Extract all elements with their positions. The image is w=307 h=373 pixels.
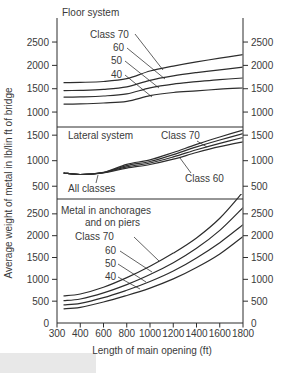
x-tick-label: 1400 <box>185 328 208 339</box>
y-tick-label-left: 2500 <box>27 208 50 219</box>
x-tick-label: 1600 <box>209 328 232 339</box>
y-tick-label-left: 1000 <box>27 274 50 285</box>
leader-line <box>125 61 159 88</box>
y-tick-label-left: 500 <box>32 296 49 307</box>
series-label: Class 70 <box>75 231 114 242</box>
y-tick-label-right: 2500 <box>251 37 274 48</box>
x-tick-label: 800 <box>118 328 135 339</box>
leader-line <box>134 237 159 261</box>
y-tick-label-right: 1500 <box>251 130 274 141</box>
leader-line <box>127 48 165 79</box>
bridge-weight-chart: 10001000150015002000200025002500Floor sy… <box>0 0 307 373</box>
leader-line <box>180 158 191 173</box>
panel-title: and on piers <box>85 217 140 228</box>
figure: 10001000150015002000200025002500Floor sy… <box>0 0 307 373</box>
y-tick-label-left: 2000 <box>27 230 50 241</box>
series-label: 50 <box>105 258 117 269</box>
y-tick-label-right: 1500 <box>251 83 274 94</box>
y-tick-labels: 0050050010001000150015002000200025002500 <box>27 208 274 328</box>
curve-class-70 <box>64 55 243 83</box>
y-tick-label-right: 1000 <box>251 155 274 166</box>
y-tick-label-right: 1000 <box>251 274 274 285</box>
series-label: 40 <box>111 69 123 80</box>
x-tick-label: 400 <box>72 328 89 339</box>
scan-shade <box>0 353 96 373</box>
x-tick-label: 1800 <box>232 328 255 339</box>
series-label: 60 <box>113 42 125 53</box>
y-tick-label-right: 2500 <box>251 208 274 219</box>
series-label: Class 70 <box>161 130 200 141</box>
annotations: Floor systemClass 70605040 <box>62 7 165 97</box>
x-ticks <box>57 323 243 328</box>
y-tick-label-right: 1000 <box>251 107 274 118</box>
y-tick-label-left: 2500 <box>27 37 50 48</box>
panel-title: Metal in anchorages <box>61 205 151 216</box>
y-tick-label-left: 2000 <box>27 60 50 71</box>
series-label: Class 70 <box>90 29 129 40</box>
axes-frame <box>57 18 243 323</box>
panel-floor-system: 10001000150015002000200025002500Floor sy… <box>27 7 274 118</box>
series-label: Class 60 <box>185 173 224 184</box>
y-tick-label-left: 1000 <box>27 155 50 166</box>
x-tick-label: 1000 <box>139 328 162 339</box>
x-tick-label: 600 <box>95 328 112 339</box>
y-tick-label-left: 1500 <box>27 83 50 94</box>
y-tick-label-right: 1500 <box>251 252 274 263</box>
curve-class-50 <box>64 138 243 175</box>
y-tick-label-left: 1000 <box>27 107 50 118</box>
panel-title: Lateral system <box>68 130 133 141</box>
y-tick-labels: 10001000150015002000200025002500 <box>27 37 274 118</box>
panel-lateral-system: 5005001000100015001500Lateral systemClas… <box>27 130 274 194</box>
y-tick-label-right: 2000 <box>251 60 274 71</box>
y-tick-label-right: 500 <box>251 296 268 307</box>
panel-anchorages-and-piers: 0050050010001000150015002000200025002500… <box>27 192 274 329</box>
panel-title: Floor system <box>62 7 119 18</box>
y-ticks <box>52 42 248 112</box>
x-axis-title: Length of main opening (ft) <box>92 345 212 356</box>
y-tick-label-right: 500 <box>251 181 268 192</box>
curve-class-40 <box>64 142 243 175</box>
leader-line <box>120 251 152 272</box>
leader-line <box>135 34 163 70</box>
y-tick-label-left: 500 <box>32 181 49 192</box>
annotations: Metal in anchoragesand on piersClass 706… <box>61 205 159 289</box>
y-tick-label-right: 0 <box>251 318 257 329</box>
series-label: 40 <box>105 271 117 282</box>
x-tick-label: 300 <box>49 328 66 339</box>
leader-line <box>96 175 98 183</box>
series-label: All classes <box>68 183 115 194</box>
curves <box>64 55 243 105</box>
y-axis-title: Average weight of metal in lb/lin ft of … <box>3 87 14 278</box>
y-tick-label-left: 0 <box>43 318 49 329</box>
curve-class-50 <box>64 78 243 97</box>
series-label: 50 <box>111 55 123 66</box>
y-tick-label-left: 1500 <box>27 130 50 141</box>
y-tick-label-right: 2000 <box>251 230 274 241</box>
y-tick-label-left: 1500 <box>27 252 50 263</box>
series-label: 60 <box>105 245 117 256</box>
x-tick-labels: 30040060080010001200140016001800 <box>49 328 255 339</box>
x-tick-label: 1200 <box>162 328 185 339</box>
